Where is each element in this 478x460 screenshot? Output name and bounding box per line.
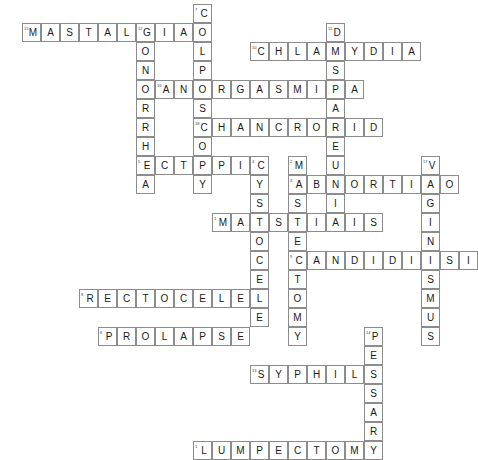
- crossword-cell[interactable]: M: [326, 42, 345, 61]
- crossword-cell[interactable]: D: [383, 251, 402, 270]
- crossword-cell[interactable]: E: [193, 289, 212, 308]
- crossword-cell[interactable]: P: [326, 80, 345, 99]
- crossword-cell[interactable]: I: [402, 251, 421, 270]
- crossword-cell[interactable]: I: [307, 80, 326, 99]
- crossword-cell[interactable]: S: [288, 194, 307, 213]
- crossword-cell[interactable]: Y: [345, 42, 364, 61]
- crossword-cell[interactable]: B: [307, 175, 326, 194]
- crossword-cell[interactable]: H: [269, 42, 288, 61]
- crossword-cell[interactable]: O: [155, 289, 174, 308]
- crossword-cell[interactable]: S: [269, 213, 288, 232]
- crossword-cell[interactable]: O: [345, 175, 364, 194]
- crossword-cell[interactable]: N: [326, 175, 345, 194]
- crossword-cell[interactable]: 1L: [193, 441, 212, 460]
- crossword-cell[interactable]: R: [288, 118, 307, 137]
- crossword-cell[interactable]: R: [212, 80, 231, 99]
- crossword-cell[interactable]: P: [193, 61, 212, 80]
- crossword-cell[interactable]: A: [402, 42, 421, 61]
- crossword-cell[interactable]: O: [440, 175, 459, 194]
- crossword-cell[interactable]: A: [98, 23, 117, 42]
- crossword-cell[interactable]: O: [193, 137, 212, 156]
- crossword-cell[interactable]: I: [326, 194, 345, 213]
- crossword-cell[interactable]: R: [364, 422, 383, 441]
- crossword-cell[interactable]: E: [364, 346, 383, 365]
- crossword-cell[interactable]: P: [250, 441, 269, 460]
- crossword-cell[interactable]: C: [174, 289, 193, 308]
- crossword-cell[interactable]: R: [117, 327, 136, 346]
- crossword-cell[interactable]: E: [231, 289, 250, 308]
- crossword-cell[interactable]: I: [383, 42, 402, 61]
- crossword-cell[interactable]: Y: [364, 441, 383, 460]
- crossword-cell[interactable]: A: [250, 80, 269, 99]
- crossword-cell[interactable]: P: [193, 156, 212, 175]
- crossword-cell[interactable]: A: [174, 23, 193, 42]
- crossword-cell[interactable]: M: [345, 441, 364, 460]
- crossword-cell[interactable]: 4A: [288, 175, 307, 194]
- crossword-cell[interactable]: S: [250, 194, 269, 213]
- crossword-cell[interactable]: T: [383, 175, 402, 194]
- crossword-cell[interactable]: D: [364, 42, 383, 61]
- crossword-cell[interactable]: 1M: [212, 213, 231, 232]
- crossword-cell[interactable]: 17V: [421, 156, 440, 175]
- crossword-cell[interactable]: O: [193, 80, 212, 99]
- crossword-cell[interactable]: A: [345, 80, 364, 99]
- crossword-cell[interactable]: D: [364, 118, 383, 137]
- crossword-cell[interactable]: A: [41, 23, 60, 42]
- crossword-cell[interactable]: R: [326, 118, 345, 137]
- crossword-cell[interactable]: R: [364, 175, 383, 194]
- crossword-cell[interactable]: S: [364, 384, 383, 403]
- crossword-cell[interactable]: L: [212, 289, 231, 308]
- crossword-cell[interactable]: T: [174, 156, 193, 175]
- crossword-cell[interactable]: A: [231, 118, 250, 137]
- crossword-cell[interactable]: L: [193, 42, 212, 61]
- crossword-cell[interactable]: T: [136, 289, 155, 308]
- crossword-cell[interactable]: S: [60, 23, 79, 42]
- crossword-cell[interactable]: M: [231, 441, 250, 460]
- crossword-cell[interactable]: A: [326, 213, 345, 232]
- crossword-cell[interactable]: Y: [250, 175, 269, 194]
- crossword-cell[interactable]: O: [288, 289, 307, 308]
- crossword-cell[interactable]: 5E: [136, 156, 155, 175]
- crossword-cell[interactable]: S: [421, 327, 440, 346]
- crossword-cell[interactable]: I: [421, 251, 440, 270]
- crossword-cell[interactable]: 14P: [364, 327, 383, 346]
- crossword-cell[interactable]: D: [345, 251, 364, 270]
- crossword-cell[interactable]: C: [250, 251, 269, 270]
- crossword-cell[interactable]: I: [345, 118, 364, 137]
- crossword-cell[interactable]: E: [326, 137, 345, 156]
- crossword-cell[interactable]: 8R: [79, 289, 98, 308]
- crossword-cell[interactable]: A: [307, 42, 326, 61]
- crossword-cell[interactable]: N: [326, 251, 345, 270]
- crossword-cell[interactable]: S: [440, 251, 459, 270]
- crossword-cell[interactable]: U: [212, 441, 231, 460]
- crossword-cell[interactable]: M: [288, 80, 307, 99]
- crossword-cell[interactable]: Y: [193, 175, 212, 194]
- crossword-cell[interactable]: O: [307, 118, 326, 137]
- crossword-cell[interactable]: A: [174, 327, 193, 346]
- crossword-cell[interactable]: 2M: [288, 156, 307, 175]
- crossword-cell[interactable]: S: [421, 270, 440, 289]
- crossword-cell[interactable]: Y: [288, 327, 307, 346]
- crossword-cell[interactable]: H: [307, 365, 326, 384]
- crossword-cell[interactable]: E: [250, 270, 269, 289]
- crossword-cell[interactable]: I: [307, 213, 326, 232]
- crossword-cell[interactable]: T: [288, 213, 307, 232]
- crossword-cell[interactable]: 18C: [193, 118, 212, 137]
- crossword-cell[interactable]: L: [117, 23, 136, 42]
- crossword-cell[interactable]: C: [155, 156, 174, 175]
- crossword-cell[interactable]: O: [250, 232, 269, 251]
- crossword-cell[interactable]: I: [402, 175, 421, 194]
- crossword-cell[interactable]: P: [212, 156, 231, 175]
- crossword-cell[interactable]: U: [421, 308, 440, 327]
- crossword-cell[interactable]: S: [326, 61, 345, 80]
- crossword-cell[interactable]: O: [326, 441, 345, 460]
- crossword-cell[interactable]: I: [345, 213, 364, 232]
- crossword-cell[interactable]: A: [326, 99, 345, 118]
- crossword-cell[interactable]: S: [193, 99, 212, 118]
- crossword-cell[interactable]: G: [421, 194, 440, 213]
- crossword-cell[interactable]: R: [136, 99, 155, 118]
- crossword-cell[interactable]: I: [231, 156, 250, 175]
- crossword-cell[interactable]: O: [193, 23, 212, 42]
- crossword-cell[interactable]: E: [269, 441, 288, 460]
- crossword-cell[interactable]: A: [231, 213, 250, 232]
